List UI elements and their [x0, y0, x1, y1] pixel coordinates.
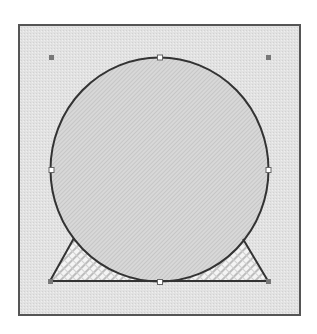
handle-top-left[interactable] — [49, 55, 54, 60]
handle-bottom[interactable] — [158, 280, 163, 285]
circle-shape[interactable] — [51, 58, 269, 282]
diagram-canvas — [0, 0, 317, 334]
handle-top[interactable] — [158, 55, 163, 60]
handle-bottom-left[interactable] — [48, 279, 53, 284]
handle-right[interactable] — [266, 168, 271, 173]
handle-left[interactable] — [49, 168, 54, 173]
handle-top-right[interactable] — [266, 55, 271, 60]
handle-bottom-right[interactable] — [266, 279, 271, 284]
